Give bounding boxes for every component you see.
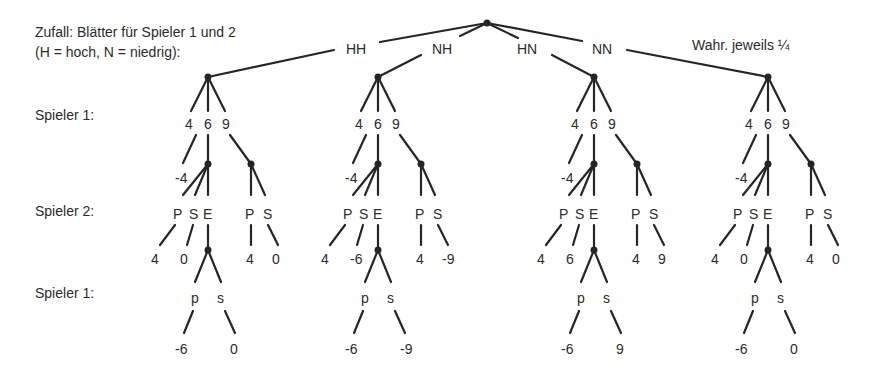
- player1-choice-label: 6: [764, 116, 772, 132]
- row-label-player1-first: Spieler 1:: [35, 107, 94, 123]
- payoff-label: 4: [806, 251, 814, 267]
- player1-choice-label: 9: [608, 116, 616, 132]
- player2-choice-label: P: [733, 206, 742, 222]
- player1-second-choice-label: s: [217, 290, 224, 306]
- payoff-label: -6: [350, 251, 363, 267]
- player1-choice-label: 9: [782, 116, 790, 132]
- row-label-player1-second: Spieler 1:: [35, 285, 94, 301]
- player1-choice-label: 4: [745, 116, 753, 132]
- player1-choice-label: 4: [185, 116, 193, 132]
- player2-choice-label: P: [245, 206, 254, 222]
- payoff-label: -6: [561, 341, 574, 357]
- subtree-nn: 469-4PSE40ps-60PS40: [711, 74, 840, 358]
- subtree-hh: 469-4PSE40ps-60PS40: [151, 74, 280, 358]
- player2-choice-label: P: [415, 206, 424, 222]
- payoff-label: -4: [561, 170, 574, 186]
- chance-edges: [208, 23, 768, 77]
- player1-second-choice-label: p: [577, 290, 585, 306]
- player1-choice-label: 4: [355, 116, 363, 132]
- subtree-hn: 469-4PSE46ps-69PS49: [537, 74, 666, 358]
- player2-choice-label: S: [823, 206, 832, 222]
- player2-choice-label: S: [749, 206, 758, 222]
- chance-label-HH: HH: [346, 41, 366, 57]
- payoff-label: 4: [537, 251, 545, 267]
- payoff-label: 0: [230, 341, 238, 357]
- player2-choice-label: E: [763, 206, 772, 222]
- chance-label-NN: NN: [592, 41, 612, 57]
- player1-choice-label: 6: [590, 116, 598, 132]
- player1-choice-label: 6: [204, 116, 212, 132]
- payoff-label: 0: [740, 251, 748, 267]
- player1-choice-label: 9: [392, 116, 400, 132]
- probability-note: Wahr. jeweils ¼: [692, 37, 790, 53]
- payoff-label: 4: [632, 251, 640, 267]
- payoff-label: 4: [321, 251, 329, 267]
- payoff-label: 4: [151, 251, 159, 267]
- player1-second-choice-label: s: [603, 290, 610, 306]
- player2-choice-label: E: [203, 206, 212, 222]
- player1-choice-label: 9: [222, 116, 230, 132]
- payoff-label: 6: [566, 251, 574, 267]
- payoff-label: 0: [180, 251, 188, 267]
- player1-second-choice-label: s: [777, 290, 784, 306]
- player2-choice-label: P: [343, 206, 352, 222]
- player2-choice-label: E: [373, 206, 382, 222]
- player2-choice-label: P: [559, 206, 568, 222]
- player1-second-choice-label: p: [361, 290, 369, 306]
- payoff-label: 4: [416, 251, 424, 267]
- payoff-label: -4: [345, 170, 358, 186]
- chance-label-NH: NH: [432, 41, 452, 57]
- player1-second-choice-label: p: [751, 290, 759, 306]
- payoff-label: -9: [400, 341, 413, 357]
- chance-label-HN: HN: [517, 41, 537, 57]
- payoff-label: 9: [616, 341, 624, 357]
- player2-choice-label: S: [189, 206, 198, 222]
- title-line-2: (H = hoch, N = niedrig):: [35, 44, 181, 60]
- payoff-label: -6: [345, 341, 358, 357]
- player1-second-choice-label: s: [387, 290, 394, 306]
- player2-choice-label: P: [173, 206, 182, 222]
- player1-choice-label: 6: [374, 116, 382, 132]
- payoff-label: 9: [658, 251, 666, 267]
- payoff-label: -6: [735, 341, 748, 357]
- payoff-label: -6: [175, 341, 188, 357]
- player2-choice-label: S: [575, 206, 584, 222]
- player2-choice-label: E: [589, 206, 598, 222]
- row-label-player2: Spieler 2:: [35, 203, 94, 219]
- game-tree-diagram: Zufall: Blätter für Spieler 1 und 2 (H =…: [0, 0, 875, 373]
- player2-choice-label: P: [631, 206, 640, 222]
- payoff-label: -4: [175, 170, 188, 186]
- player1-choice-label: 4: [571, 116, 579, 132]
- payoff-label: 0: [832, 251, 840, 267]
- player1-second-choice-label: p: [191, 290, 199, 306]
- payoff-label: 0: [272, 251, 280, 267]
- player2-choice-label: S: [359, 206, 368, 222]
- payoff-label: 4: [711, 251, 719, 267]
- player2-choice-label: S: [649, 206, 658, 222]
- subtree-nh: 469-4PSE4-6ps-6-9PS4-9: [321, 74, 455, 358]
- payoff-label: -4: [735, 170, 748, 186]
- payoff-label: 4: [246, 251, 254, 267]
- player2-choice-label: S: [263, 206, 272, 222]
- payoff-label: 0: [790, 341, 798, 357]
- title-line-1: Zufall: Blätter für Spieler 1 und 2: [35, 24, 236, 40]
- player2-choice-label: S: [433, 206, 442, 222]
- payoff-label: -9: [442, 251, 455, 267]
- player2-choice-label: P: [805, 206, 814, 222]
